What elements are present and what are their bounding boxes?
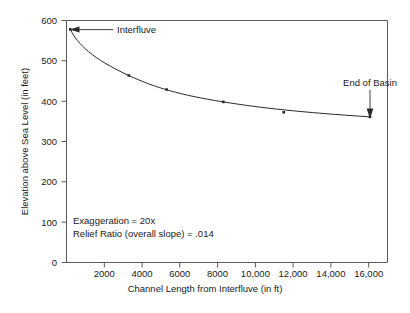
chart-svg: 600 500 400 300 200 100 0 2000 4000 6000… — [0, 0, 410, 313]
y-tick-label-200: 200 — [41, 176, 57, 187]
x-tick-label-2000: 2000 — [94, 268, 115, 279]
y-tick-label-400: 400 — [41, 96, 57, 107]
annotation-end-of-basin: End of Basin — [343, 77, 397, 119]
annotation-interfluve: Interfluve — [70, 24, 157, 35]
x-tick-label-12000: 12,000 — [279, 268, 308, 279]
end-of-basin-annotation-label: End of Basin — [343, 77, 397, 88]
y-axis-ticks — [62, 21, 67, 263]
data-point-3 — [222, 101, 225, 104]
y-tick-label-600: 600 — [41, 15, 57, 26]
data-point-4 — [282, 111, 285, 114]
interfluve-annotation-label: Interfluve — [117, 24, 156, 35]
profile-curve — [70, 29, 370, 117]
x-tick-label-10000: 10,000 — [241, 268, 270, 279]
note-exaggeration: Exaggeration = 20x — [73, 215, 155, 226]
data-point-1 — [128, 74, 131, 77]
y-axis-tick-labels: 600 500 400 300 200 100 0 — [41, 15, 57, 268]
x-axis-ticks — [104, 263, 368, 268]
data-series-group — [69, 28, 371, 118]
y-axis-title: Elevation above Sea Level (in feet) — [19, 68, 30, 215]
y-tick-label-0: 0 — [52, 257, 57, 268]
x-tick-label-14000: 14,000 — [316, 268, 345, 279]
y-tick-label-100: 100 — [41, 217, 57, 228]
note-relief-ratio: Relief Ratio (overall slope) = .014 — [73, 228, 214, 239]
x-tick-label-8000: 8000 — [207, 268, 228, 279]
x-tick-label-16000: 16,000 — [354, 268, 383, 279]
y-tick-label-300: 300 — [41, 136, 57, 147]
x-axis-tick-labels: 2000 4000 6000 8000 10,000 12,000 14,000… — [94, 268, 384, 279]
data-point-2 — [165, 88, 168, 91]
axes-group — [67, 21, 388, 263]
notes-block: Exaggeration = 20x Relief Ratio (overall… — [73, 215, 214, 239]
y-tick-label-500: 500 — [41, 55, 57, 66]
x-tick-label-4000: 4000 — [132, 268, 153, 279]
figure-container: 600 500 400 300 200 100 0 2000 4000 6000… — [0, 0, 410, 313]
x-tick-label-6000: 6000 — [169, 268, 190, 279]
x-axis-title: Channel Length from Interfluve (in ft) — [128, 283, 283, 294]
